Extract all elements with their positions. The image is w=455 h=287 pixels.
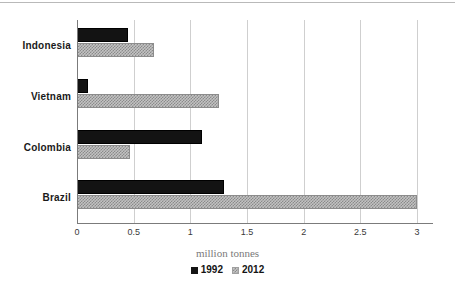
bar-group-indonesia xyxy=(77,20,417,71)
legend-label-2012: 2012 xyxy=(242,265,264,275)
bar-indonesia-1992 xyxy=(77,28,128,42)
legend-label-1992: 1992 xyxy=(201,265,223,275)
bar-vietnam-1992 xyxy=(77,79,88,93)
legend-item-1992: 1992 xyxy=(191,265,223,275)
y-axis-line xyxy=(77,20,78,224)
x-axis-line xyxy=(77,223,433,224)
category-label-brazil: Brazil xyxy=(43,193,71,203)
category-label-vietnam: Vietnam xyxy=(31,92,71,102)
checkered-gray-square-icon xyxy=(232,267,239,274)
x-tick-label-0: 0 xyxy=(74,228,79,237)
bar-chart: Indonesia Vietnam Colombia Brazil 0 0.5 … xyxy=(0,0,455,287)
x-tick-label-2: 2 xyxy=(301,228,306,237)
bar-group-brazil xyxy=(77,172,417,223)
bar-brazil-2012 xyxy=(77,195,417,209)
bar-brazil-1992 xyxy=(77,180,224,194)
x-tick-label-1-5: 1.5 xyxy=(241,228,254,237)
bar-colombia-2012 xyxy=(77,145,130,159)
x-tick-label-2-5: 2.5 xyxy=(354,228,367,237)
x-axis-title: million tonnes xyxy=(0,248,455,259)
x-tick-label-3: 3 xyxy=(414,228,419,237)
plot-area xyxy=(77,20,417,223)
solid-black-square-icon xyxy=(191,267,198,274)
x-tick-label-1: 1 xyxy=(188,228,193,237)
bar-colombia-1992 xyxy=(77,130,202,144)
bar-group-vietnam xyxy=(77,71,417,122)
top-divider xyxy=(0,2,455,3)
bar-vietnam-2012 xyxy=(77,94,219,108)
chart-legend: 1992 2012 xyxy=(0,265,455,275)
legend-item-2012: 2012 xyxy=(232,265,264,275)
bar-indonesia-2012 xyxy=(77,43,154,57)
category-label-colombia: Colombia xyxy=(24,143,71,153)
bar-group-colombia xyxy=(77,122,417,173)
x-tick-label-0-5: 0.5 xyxy=(127,228,140,237)
gridline-3 xyxy=(417,20,418,223)
category-label-indonesia: Indonesia xyxy=(23,41,71,51)
